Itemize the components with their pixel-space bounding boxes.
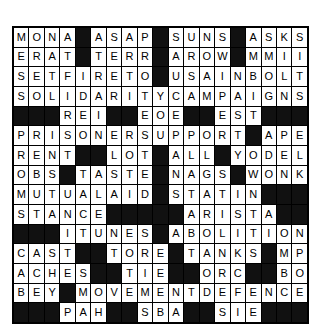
- crossword-letter-cell[interactable]: O: [75, 126, 90, 146]
- crossword-letter-cell[interactable]: M: [14, 185, 29, 205]
- crossword-letter-cell[interactable]: O: [261, 67, 276, 87]
- crossword-letter-cell[interactable]: A: [184, 204, 199, 224]
- crossword-letter-cell[interactable]: K: [276, 28, 291, 48]
- crossword-letter-cell[interactable]: S: [168, 185, 183, 205]
- crossword-letter-cell[interactable]: N: [44, 28, 59, 48]
- crossword-letter-cell[interactable]: R: [91, 67, 106, 87]
- crossword-letter-cell[interactable]: M: [276, 244, 291, 264]
- crossword-letter-cell[interactable]: I: [230, 303, 245, 323]
- crossword-letter-cell[interactable]: O: [29, 86, 44, 106]
- crossword-letter-cell[interactable]: M: [199, 86, 214, 106]
- crossword-letter-cell[interactable]: P: [137, 28, 152, 48]
- crossword-letter-cell[interactable]: U: [184, 28, 199, 48]
- crossword-letter-cell[interactable]: M: [14, 28, 29, 48]
- crossword-letter-cell[interactable]: S: [184, 67, 199, 87]
- crossword-letter-cell[interactable]: T: [137, 86, 152, 106]
- crossword-letter-cell[interactable]: E: [137, 106, 152, 126]
- crossword-letter-cell[interactable]: E: [153, 283, 168, 303]
- crossword-letter-cell[interactable]: N: [276, 86, 291, 106]
- crossword-letter-cell[interactable]: A: [168, 303, 183, 323]
- crossword-letter-cell[interactable]: C: [14, 244, 29, 264]
- crossword-letter-cell[interactable]: O: [153, 106, 168, 126]
- crossword-letter-cell[interactable]: D: [261, 145, 276, 165]
- crossword-letter-cell[interactable]: U: [91, 224, 106, 244]
- crossword-letter-cell[interactable]: T: [91, 47, 106, 67]
- crossword-letter-cell[interactable]: S: [14, 204, 29, 224]
- crossword-letter-cell[interactable]: O: [199, 47, 214, 67]
- crossword-letter-cell[interactable]: N: [106, 224, 121, 244]
- crossword-letter-cell[interactable]: A: [246, 28, 261, 48]
- crossword-letter-cell[interactable]: T: [60, 47, 75, 67]
- crossword-letter-cell[interactable]: A: [168, 47, 183, 67]
- crossword-letter-cell[interactable]: R: [14, 145, 29, 165]
- crossword-letter-cell[interactable]: T: [184, 244, 199, 264]
- crossword-letter-cell[interactable]: D: [75, 86, 90, 106]
- crossword-letter-cell[interactable]: N: [199, 28, 214, 48]
- crossword-letter-cell[interactable]: I: [215, 67, 230, 87]
- crossword-letter-cell[interactable]: S: [215, 165, 230, 185]
- crossword-letter-cell[interactable]: M: [137, 283, 152, 303]
- crossword-letter-cell[interactable]: A: [44, 47, 59, 67]
- crossword-letter-cell[interactable]: A: [122, 28, 137, 48]
- crossword-letter-cell[interactable]: K: [230, 244, 245, 264]
- crossword-letter-cell[interactable]: A: [106, 185, 121, 205]
- crossword-letter-cell[interactable]: T: [122, 67, 137, 87]
- crossword-letter-cell[interactable]: A: [230, 86, 245, 106]
- crossword-letter-cell[interactable]: U: [153, 126, 168, 146]
- crossword-letter-cell[interactable]: O: [137, 67, 152, 87]
- crossword-letter-cell[interactable]: I: [60, 224, 75, 244]
- crossword-letter-cell[interactable]: I: [276, 47, 291, 67]
- crossword-letter-cell[interactable]: P: [168, 126, 183, 146]
- crossword-letter-cell[interactable]: I: [75, 67, 90, 87]
- crossword-letter-cell[interactable]: S: [137, 224, 152, 244]
- crossword-letter-cell[interactable]: E: [122, 224, 137, 244]
- crossword-letter-cell[interactable]: C: [29, 263, 44, 283]
- crossword-letter-cell[interactable]: T: [75, 224, 90, 244]
- crossword-letter-cell[interactable]: O: [276, 224, 291, 244]
- crossword-letter-cell[interactable]: T: [60, 244, 75, 264]
- crossword-letter-cell[interactable]: I: [215, 204, 230, 224]
- crossword-letter-cell[interactable]: H: [44, 263, 59, 283]
- crossword-letter-cell[interactable]: S: [44, 244, 59, 264]
- crossword-letter-cell[interactable]: A: [60, 28, 75, 48]
- crossword-letter-cell[interactable]: U: [168, 67, 183, 87]
- crossword-letter-cell[interactable]: N: [168, 165, 183, 185]
- crossword-letter-cell[interactable]: I: [137, 263, 152, 283]
- crossword-letter-cell[interactable]: S: [14, 86, 29, 106]
- crossword-letter-cell[interactable]: E: [292, 126, 308, 146]
- crossword-letter-cell[interactable]: B: [14, 283, 29, 303]
- crossword-letter-cell[interactable]: E: [276, 145, 291, 165]
- crossword-letter-cell[interactable]: F: [60, 67, 75, 87]
- crossword-letter-cell[interactable]: E: [29, 145, 44, 165]
- crossword-letter-cell[interactable]: S: [230, 106, 245, 126]
- crossword-letter-cell[interactable]: C: [75, 204, 90, 224]
- crossword-letter-cell[interactable]: S: [292, 86, 308, 106]
- crossword-letter-cell[interactable]: N: [276, 165, 291, 185]
- crossword-letter-cell[interactable]: T: [60, 145, 75, 165]
- crossword-letter-cell[interactable]: T: [230, 126, 245, 146]
- crossword-letter-cell[interactable]: G: [199, 165, 214, 185]
- crossword-letter-cell[interactable]: R: [137, 47, 152, 67]
- crossword-letter-cell[interactable]: E: [29, 283, 44, 303]
- crossword-letter-cell[interactable]: Y: [230, 145, 245, 165]
- crossword-letter-cell[interactable]: T: [106, 244, 121, 264]
- crossword-letter-cell[interactable]: R: [199, 204, 214, 224]
- crossword-letter-cell[interactable]: N: [230, 67, 245, 87]
- crossword-letter-cell[interactable]: T: [122, 263, 137, 283]
- crossword-letter-cell[interactable]: M: [246, 47, 261, 67]
- crossword-letter-cell[interactable]: N: [261, 283, 276, 303]
- crossword-letter-cell[interactable]: L: [184, 145, 199, 165]
- crossword-letter-cell[interactable]: A: [261, 204, 276, 224]
- crossword-letter-cell[interactable]: E: [215, 106, 230, 126]
- crossword-letter-cell[interactable]: A: [168, 145, 183, 165]
- crossword-letter-cell[interactable]: O: [122, 244, 137, 264]
- crossword-letter-cell[interactable]: A: [261, 126, 276, 146]
- crossword-letter-cell[interactable]: B: [153, 303, 168, 323]
- crossword-letter-cell[interactable]: I: [246, 86, 261, 106]
- crossword-letter-cell[interactable]: E: [168, 106, 183, 126]
- crossword-letter-cell[interactable]: G: [261, 86, 276, 106]
- crossword-letter-cell[interactable]: E: [29, 67, 44, 87]
- crossword-letter-cell[interactable]: S: [14, 67, 29, 87]
- crossword-letter-cell[interactable]: O: [199, 263, 214, 283]
- crossword-letter-cell[interactable]: S: [137, 303, 152, 323]
